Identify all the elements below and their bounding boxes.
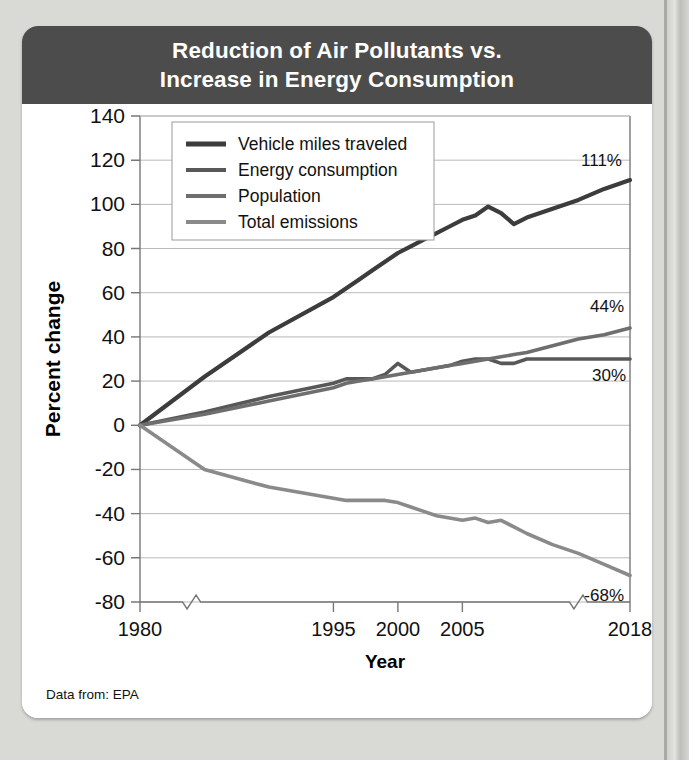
series-line-population — [140, 328, 630, 425]
page-title-line-2: Increase in Energy Consumption — [160, 65, 514, 94]
y-tick-label: -60 — [95, 546, 125, 569]
y-tick-label: -80 — [95, 590, 125, 613]
y-tick-label: 40 — [102, 325, 125, 348]
x-tick-label: 2018 — [608, 618, 652, 640]
chart-card: Reduction of Air Pollutants vs. Increase… — [22, 26, 652, 718]
series-end-label: 30% — [592, 366, 626, 385]
legend-label: Population — [238, 186, 321, 206]
x-axis-title: Year — [365, 651, 406, 672]
page-edge-line — [664, 0, 667, 760]
page-edge-decoration — [667, 0, 689, 760]
y-tick-label: 0 — [113, 413, 125, 436]
source-note: Data from: EPA — [46, 687, 139, 702]
y-tick-label: 20 — [102, 369, 125, 392]
series-line-total-emissions — [140, 425, 630, 575]
y-tick-label: 60 — [102, 281, 125, 304]
y-tick-label: 120 — [90, 148, 125, 171]
legend-label: Vehicle miles traveled — [238, 134, 407, 154]
y-tick-label: 80 — [102, 237, 125, 260]
legend-label: Total emissions — [238, 212, 358, 232]
y-axis-title: Percent change — [41, 281, 64, 437]
legend-label: Energy consumption — [238, 160, 398, 180]
series-end-label: -68% — [584, 586, 624, 605]
line-chart: 140120100806040200-20-40-60-801980199520… — [22, 104, 652, 718]
y-tick-label: 100 — [90, 192, 125, 215]
y-tick-label: -20 — [95, 457, 125, 480]
x-tick-label: 1980 — [118, 618, 163, 640]
x-tick-label: 2000 — [376, 618, 421, 640]
series-end-label: 44% — [590, 297, 624, 316]
chart-area: 140120100806040200-20-40-60-801980199520… — [22, 104, 652, 718]
x-tick-label: 2005 — [440, 618, 485, 640]
x-tick-label: 1995 — [311, 618, 356, 640]
x-axis-line-with-break — [140, 595, 630, 609]
y-tick-label: 140 — [90, 104, 125, 127]
series-end-label: 111% — [581, 151, 622, 170]
card-header: Reduction of Air Pollutants vs. Increase… — [22, 26, 652, 104]
page-title-line-1: Reduction of Air Pollutants vs. — [172, 36, 502, 65]
y-tick-label: -40 — [95, 502, 125, 525]
